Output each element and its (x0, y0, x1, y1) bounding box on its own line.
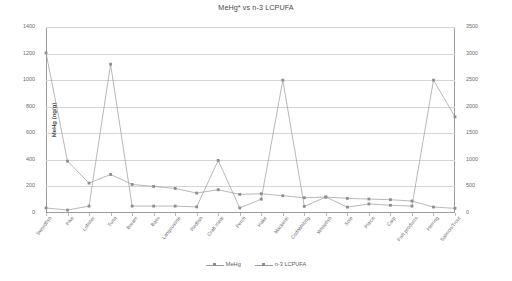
data-point-marker (217, 188, 220, 191)
x-axis-category-label-text: Crab meat (206, 215, 225, 237)
data-point-marker (131, 205, 134, 208)
y-axis-left-tick-label: 600 (0, 130, 35, 135)
legend-marker-icon (255, 262, 273, 268)
y-axis-left-tick-label: 1400 (0, 24, 35, 29)
x-axis-category-label-text: Pike (64, 215, 75, 226)
legend-item-1[interactable]: MeHg (206, 262, 241, 268)
data-point-marker (88, 205, 91, 208)
x-axis-category-label-text: Plaice (363, 215, 376, 229)
x-axis-category-label-text: Bass (149, 215, 161, 227)
x-axis-category-label-text: Salmon/Trout (439, 215, 462, 242)
x-axis-category-label-text: Swordfish (34, 215, 52, 236)
x-axis-category-label-text: Whitefish (315, 215, 332, 235)
data-point-marker (45, 52, 48, 55)
data-point-marker (303, 205, 306, 208)
data-point-marker (152, 185, 155, 188)
chart-container: MeHg* vs n-3 LCPUFA 02004006008001000120… (0, 0, 512, 281)
data-point-marker (432, 206, 435, 209)
data-point-marker (454, 207, 457, 210)
data-point-marker (217, 159, 220, 162)
x-axis-category-label-text: Langoustine (160, 215, 182, 240)
y-axis-right-tick-label: 1500 (466, 130, 506, 135)
data-point-marker (454, 115, 457, 118)
legend-label: MeHg (226, 262, 241, 268)
data-point-marker (109, 173, 112, 176)
x-axis-category-label-text: Perch (234, 215, 247, 229)
data-point-marker (260, 198, 263, 201)
legend-item-2[interactable]: n-3 LCPUFA (255, 262, 306, 268)
data-point-marker (174, 205, 177, 208)
y-axis-right-tick-label: 500 (466, 183, 506, 188)
x-axis-category-label-text: Hake (256, 215, 268, 228)
data-point-marker (389, 198, 392, 201)
y-axis-right-tick-label: 2000 (466, 104, 506, 109)
data-series-layer (46, 27, 455, 213)
data-point-marker (152, 205, 155, 208)
y-axis-right-tick-label: 0 (466, 210, 506, 215)
data-point-marker (238, 207, 241, 210)
series-line-2 (46, 64, 455, 210)
x-axis-category-label-text: Fish products (395, 215, 418, 242)
data-point-marker (131, 183, 134, 186)
data-point-marker (109, 63, 112, 66)
y-axis-right-tick-label: 3500 (466, 24, 506, 29)
data-point-marker (411, 205, 414, 208)
y-axis-left-tick-label: 400 (0, 157, 35, 162)
data-point-marker (367, 198, 370, 201)
data-point-marker (238, 193, 241, 196)
x-axis-category-label-text: Carp (386, 215, 397, 227)
y-axis-right-tick-label: 1000 (466, 157, 506, 162)
x-axis-category-label-text: Tuna (106, 215, 118, 228)
chart-title: MeHg* vs n-3 LCPUFA (0, 3, 512, 12)
data-point-marker (66, 209, 69, 212)
x-axis-category-labels: SwordfishPikeLobsterTunaBreamBassLangous… (46, 215, 455, 265)
x-axis-category-label-text: Herring (425, 215, 440, 232)
x-axis-category-label-text: Redfish (188, 215, 203, 232)
legend-label: n-3 LCPUFA (275, 262, 306, 268)
x-axis-category-label-text: Lobster (81, 215, 96, 232)
data-point-marker (281, 194, 284, 197)
x-axis-category-label-text: Cod/Whiting (290, 215, 311, 240)
x-axis-category-label-text: Bream (125, 215, 139, 230)
data-point-marker (346, 206, 349, 209)
y-axis-right-tick-label: 3000 (466, 51, 506, 56)
y-axis-left-tick-label: 200 (0, 183, 35, 188)
legend-marker-icon (206, 262, 224, 268)
data-point-marker (389, 204, 392, 207)
data-point-marker (367, 203, 370, 206)
y-axis-left-tick-label: 0 (0, 210, 35, 215)
data-point-marker (88, 182, 91, 185)
y-axis-left-tick-label: 1200 (0, 51, 35, 56)
x-axis-category-label-text: Mackerel (272, 215, 289, 235)
x-axis-category-label-text: Sole (343, 215, 354, 227)
chart-legend: MeHgn-3 LCPUFA (0, 262, 512, 268)
data-point-marker (174, 187, 177, 190)
data-point-marker (432, 79, 435, 82)
data-point-marker (45, 207, 48, 210)
data-point-marker (281, 79, 284, 82)
series-line-1 (46, 53, 455, 208)
y-axis-left-tick-label: 1000 (0, 77, 35, 82)
data-point-marker (66, 160, 69, 163)
y-axis-left-tick-label: 800 (0, 104, 35, 109)
y-axis-right-tick-label: 2500 (466, 77, 506, 82)
data-point-marker (195, 205, 198, 208)
data-point-marker (346, 197, 349, 200)
